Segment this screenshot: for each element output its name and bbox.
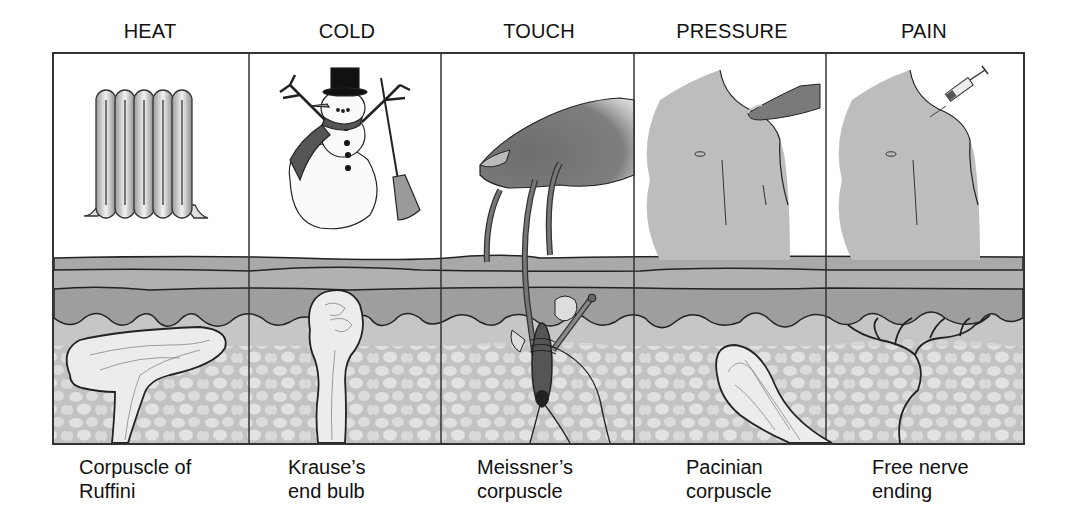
caption-line: corpuscle xyxy=(686,479,772,503)
heading-pressure: PRESSURE xyxy=(634,20,830,43)
diagram-frame xyxy=(52,52,1025,445)
caption-line: Pacinian xyxy=(686,455,772,479)
caption-meissner: Meissner’s corpuscle xyxy=(477,455,573,503)
caption-krause: Krause’s end bulb xyxy=(288,455,365,503)
heading-heat: HEAT xyxy=(52,20,248,43)
caption-line: corpuscle xyxy=(477,479,573,503)
heading-touch: TOUCH xyxy=(441,20,637,43)
caption-line: Ruffini xyxy=(79,479,191,503)
caption-line: Meissner’s xyxy=(477,455,573,479)
finger-pressing-shoulder-icon xyxy=(647,70,820,260)
caption-line: Free nerve xyxy=(872,455,969,479)
caption-line: end bulb xyxy=(288,479,365,503)
heading-pain: PAIN xyxy=(826,20,1022,43)
syringe-shoulder-icon xyxy=(839,66,988,260)
caption-pacinian: Pacinian corpuscle xyxy=(686,455,772,503)
heading-cold: COLD xyxy=(249,20,445,43)
caption-ruffini: Corpuscle of Ruffini xyxy=(79,455,191,503)
caption-line: ending xyxy=(872,479,969,503)
caption-free-nerve: Free nerve ending xyxy=(872,455,969,503)
snowman-icon xyxy=(280,68,420,229)
radiator-icon xyxy=(84,90,208,218)
caption-line: Corpuscle of xyxy=(79,455,191,479)
diagram-svg xyxy=(54,54,1023,443)
caption-line: Krause’s xyxy=(288,455,365,479)
